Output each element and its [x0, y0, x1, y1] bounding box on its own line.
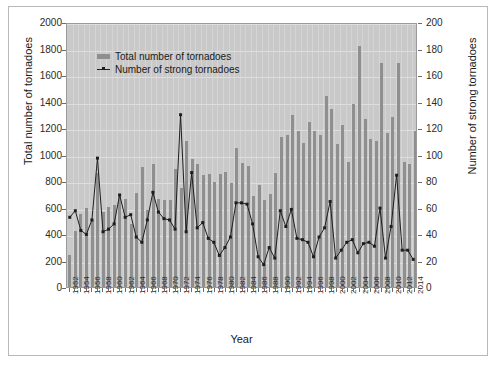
- x-axis-tick-label: 1994: [306, 276, 314, 294]
- line-data-point: [367, 241, 370, 244]
- line-data-point: [179, 113, 182, 116]
- x-axis-tick-mark: [97, 288, 98, 292]
- line-data-point: [295, 237, 298, 240]
- line-data-point: [379, 207, 382, 210]
- line-data-point: [185, 230, 188, 233]
- x-axis-tick-label: 1958: [105, 276, 113, 294]
- bar-swatch-icon: [97, 54, 110, 59]
- x-axis-tick-mark: [197, 288, 198, 292]
- line-data-point: [334, 257, 337, 260]
- line-data-point: [240, 201, 243, 204]
- y-axis-right-tick-mark: [418, 76, 422, 77]
- x-axis-tick-mark: [175, 288, 176, 292]
- line-data-point: [373, 245, 376, 248]
- x-axis-tick-label: 1972: [183, 276, 191, 294]
- x-axis-tick-mark: [342, 288, 343, 292]
- line-data-point: [318, 236, 321, 239]
- x-axis-tick-label: 2012: [406, 276, 414, 294]
- line-data-point: [146, 218, 149, 221]
- x-axis-tick-mark: [164, 288, 165, 292]
- x-axis-tick-mark: [236, 288, 237, 292]
- line-data-point: [406, 249, 409, 252]
- line-data-point: [174, 228, 177, 231]
- x-axis-tick-mark: [281, 288, 282, 292]
- y-axis-right-tick-label: 160: [426, 71, 460, 81]
- line-data-point: [102, 230, 105, 233]
- line-data-point: [251, 222, 254, 225]
- x-axis-tick-label: 1952: [72, 276, 80, 294]
- x-axis-tick-mark: [169, 288, 170, 292]
- x-axis-tick-label: 1978: [217, 276, 225, 294]
- x-axis-tick-mark: [292, 288, 293, 292]
- x-axis-tick-mark: [375, 288, 376, 292]
- line-data-point: [157, 211, 160, 214]
- y-axis-right-tick-label: 60: [426, 204, 460, 214]
- line-data-point: [257, 255, 260, 258]
- x-axis-tick-mark: [225, 288, 226, 292]
- y-axis-right-tick-mark: [418, 103, 422, 104]
- line-data-point: [151, 191, 154, 194]
- chart-legend: Total number of tornadoes Number of stro…: [97, 50, 240, 76]
- line-data-point: [262, 263, 265, 266]
- line-data-point: [273, 257, 276, 260]
- y-axis-left-tick-label: 400: [22, 230, 62, 240]
- x-axis-tick-label: 1964: [139, 276, 147, 294]
- x-axis-tick-label: 1970: [172, 276, 180, 294]
- y-axis-right-title: Number of strong tornadoes: [466, 11, 478, 201]
- y-axis-right-tick-mark: [418, 50, 422, 51]
- line-data-point: [68, 216, 71, 219]
- x-axis-tick-label: 2002: [350, 276, 358, 294]
- y-axis-right-tick-label: 200: [426, 18, 460, 28]
- x-axis-tick-label: 2004: [362, 276, 370, 294]
- line-data-point: [284, 225, 287, 228]
- x-axis-tick-label: 1998: [328, 276, 336, 294]
- line-data-point: [129, 213, 132, 216]
- line-data-point: [223, 246, 226, 249]
- x-axis-tick-label: 2014: [417, 276, 425, 294]
- line-data-point: [246, 203, 249, 206]
- line-data-point: [384, 257, 387, 260]
- line-data-point: [329, 200, 332, 203]
- x-axis-tick-mark: [130, 288, 131, 292]
- x-axis-tick-mark: [208, 288, 209, 292]
- line-data-point: [356, 251, 359, 254]
- x-axis-tick-label: 1992: [295, 276, 303, 294]
- x-axis-tick-label: 1984: [250, 276, 258, 294]
- line-data-point: [107, 228, 110, 231]
- line-data-point: [229, 236, 232, 239]
- x-axis-tick-mark: [303, 288, 304, 292]
- x-axis-tick-mark: [320, 288, 321, 292]
- x-axis-tick-mark: [152, 288, 153, 292]
- y-axis-left-tick-label: 0: [22, 283, 62, 293]
- x-axis-tick-mark: [74, 288, 75, 292]
- x-axis-tick-mark: [253, 288, 254, 292]
- x-axis-tick-mark: [286, 288, 287, 292]
- y-axis-right-tick-mark: [418, 235, 422, 236]
- line-data-point: [190, 171, 193, 174]
- y-axis-left-title: Total number of tornadoes: [22, 11, 34, 191]
- line-data-point: [340, 249, 343, 252]
- line-data-point: [268, 246, 271, 249]
- line-data-point: [401, 249, 404, 252]
- x-axis-tick-label: 1976: [206, 276, 214, 294]
- x-axis-tick-mark: [136, 288, 137, 292]
- x-axis-tick-mark: [80, 288, 81, 292]
- x-axis-tick-mark: [158, 288, 159, 292]
- x-axis-tick-mark: [230, 288, 231, 292]
- x-axis-tick-mark: [264, 288, 265, 292]
- line-data-point: [279, 209, 282, 212]
- x-axis-tick-mark: [147, 288, 148, 292]
- line-data-point: [135, 236, 138, 239]
- line-data-point: [323, 226, 326, 229]
- x-axis-tick-mark: [214, 288, 215, 292]
- x-axis-tick-label: 1962: [128, 276, 136, 294]
- line-data-point: [351, 238, 354, 241]
- y-axis-right-tick-mark: [418, 209, 422, 210]
- y-axis-right-tick-label: 80: [426, 177, 460, 187]
- line-data-point: [362, 242, 365, 245]
- x-axis-tick-label: 1968: [161, 276, 169, 294]
- line-data-point: [301, 238, 304, 241]
- x-axis-tick-mark: [398, 288, 399, 292]
- x-axis-tick-mark: [386, 288, 387, 292]
- legend-label-strong: Number of strong tornadoes: [115, 64, 240, 75]
